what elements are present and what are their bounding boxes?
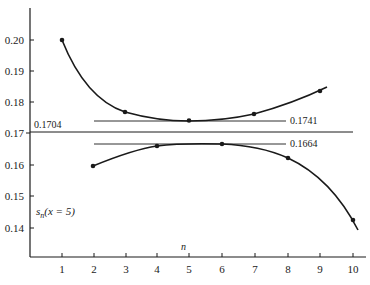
x-tick-label: 10	[348, 263, 360, 275]
reference-label-0-1704: 0.1704	[34, 119, 62, 130]
x-tick-label: 8	[285, 263, 291, 275]
y-tick-label: 0.19	[5, 65, 25, 77]
reference-label-0-1664: 0.1664	[290, 138, 318, 149]
y-tick-labels: 0.20 0.19 0.18 0.17 0.16 0.15 0.14	[5, 34, 25, 234]
y-tick-label: 0.15	[5, 190, 25, 202]
x-tick-label: 3	[123, 263, 129, 275]
x-tick-label: 7	[252, 263, 258, 275]
y-tick-label: 0.18	[5, 96, 25, 108]
lower-series-curve	[93, 144, 358, 230]
y-tick-label: 0.16	[5, 159, 25, 171]
x-tick-label: 9	[317, 263, 323, 275]
x-tick-label: 1	[59, 263, 65, 275]
reference-label-0-1741: 0.1741	[290, 115, 318, 126]
x-tick-label: 4	[154, 263, 160, 275]
upper-series-points	[60, 38, 323, 123]
x-tick-label: 5	[186, 263, 192, 275]
y-tick-label: 0.14	[5, 222, 25, 234]
x-tick-labels: 1 2 3 4 5 6 7 8 9 10	[59, 263, 359, 275]
upper-series-curve	[62, 40, 327, 121]
x-tick-label: 6	[219, 263, 225, 275]
y-tick-label: 0.20	[5, 34, 25, 46]
y-tick-label: 0.17	[5, 127, 25, 139]
series-annotation: sn(x = 5)	[36, 205, 75, 220]
x-axis-label: n	[181, 241, 186, 252]
lower-series-points	[91, 142, 356, 223]
x-tick-label: 2	[91, 263, 97, 275]
chart: 0.20 0.19 0.18 0.17 0.16 0.15 0.14 1 2 3…	[0, 0, 370, 285]
